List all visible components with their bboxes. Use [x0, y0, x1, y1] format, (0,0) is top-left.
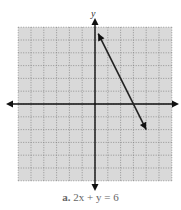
caption-equation: 2x + y = 6 [73, 191, 118, 203]
caption-label: a. [62, 191, 70, 203]
y-axis-label: y [91, 8, 95, 19]
coordinate-plane [0, 0, 181, 210]
chart-caption: a. 2x + y = 6 [0, 191, 181, 203]
